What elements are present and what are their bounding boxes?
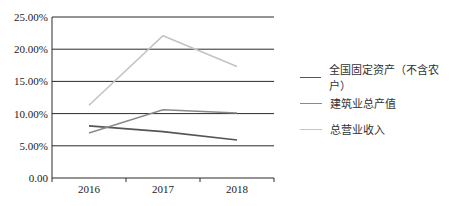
y-tick-label: 0.00	[29, 172, 49, 184]
y-tick-label: 25.00%	[14, 11, 48, 23]
series-line-0	[89, 126, 237, 140]
x-tick-label: 2018	[226, 183, 249, 195]
legend-item: 全国固定资产（不含农户）	[300, 64, 456, 90]
y-tick-label: 10.00%	[14, 108, 48, 120]
y-tick-label: 5.00%	[20, 140, 48, 152]
legend-item: 总营业收入	[300, 116, 456, 142]
legend-item: 建筑业总产值	[300, 90, 456, 116]
y-tick-label: 15.00%	[14, 75, 48, 87]
series-line-2	[89, 36, 237, 106]
legend-label-1: 建筑业总产值	[330, 95, 396, 111]
x-tick-label: 2016	[78, 183, 101, 195]
legend: 全国固定资产（不含农户） 建筑业总产值 总营业收入	[300, 64, 456, 142]
legend-swatch-2	[300, 129, 322, 130]
legend-swatch-1	[300, 103, 322, 104]
legend-label-0: 全国固定资产（不含农户）	[329, 61, 456, 93]
legend-label-2: 总营业收入	[330, 121, 385, 137]
x-tick-label: 2017	[152, 183, 175, 195]
y-tick-label: 20.00%	[14, 43, 48, 55]
legend-swatch-0	[300, 77, 321, 78]
